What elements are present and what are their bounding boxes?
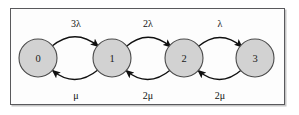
arrow-1-to-0 xyxy=(53,70,99,80)
forward-transition-arrows xyxy=(52,37,243,47)
arrow-1-to-2 xyxy=(126,37,172,47)
state-node-1-label: 1 xyxy=(109,53,114,64)
state-nodes: 0 1 2 3 xyxy=(19,39,274,77)
rate-label-3-to-2: 2μ xyxy=(215,90,225,101)
arrow-2-to-1 xyxy=(126,70,171,80)
arrow-3-to-2 xyxy=(198,70,242,80)
rate-label-2-to-3: λ xyxy=(218,18,223,29)
state-transition-graph: 0 1 2 3 3λ 2λ λ μ 2μ 2μ xyxy=(0,0,299,115)
backward-rate-labels: μ 2μ 2μ xyxy=(73,90,225,101)
rate-label-1-to-0: μ xyxy=(73,90,78,101)
state-node-3-label: 3 xyxy=(252,53,257,64)
backward-transition-arrows xyxy=(53,70,243,80)
arrow-0-to-1 xyxy=(52,37,99,47)
arrow-2-to-3 xyxy=(198,38,243,48)
forward-rate-labels: 3λ 2λ λ xyxy=(71,18,223,29)
rate-label-2-to-1: 2μ xyxy=(143,90,153,101)
state-node-2-label: 2 xyxy=(181,53,186,64)
diagram-canvas: 0 1 2 3 3λ 2λ λ μ 2μ 2μ xyxy=(0,0,299,115)
rate-label-0-to-1: 3λ xyxy=(71,18,81,29)
rate-label-1-to-2: 2λ xyxy=(143,18,153,29)
state-node-0-label: 0 xyxy=(35,53,40,64)
